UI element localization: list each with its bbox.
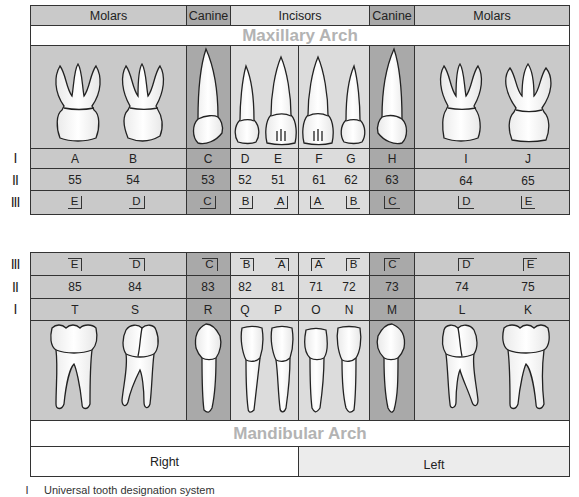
maxillary-arch-label: Maxillary Arch (31, 25, 569, 46)
lower-canine-tooth-m (374, 322, 410, 414)
palmer-symbol: A (310, 196, 325, 209)
upper-canine-tooth-h (374, 47, 410, 147)
lower-universal-p: P (268, 299, 288, 320)
lower-canine-tooth-r (190, 322, 226, 414)
legend-text: Universal tooth designation system (44, 484, 215, 496)
palmer-symbol: C (202, 258, 217, 271)
upper-fdi-53: 53 (188, 169, 228, 190)
upper-group-canine-left: Canine (369, 6, 414, 25)
lower-palmer-a-left: A (305, 253, 331, 275)
upper-group-canine-right: Canine (186, 6, 230, 25)
upper-fdi-55: 55 (55, 169, 95, 190)
lower-fdi-73: 73 (372, 276, 412, 298)
upper-canine-tooth-c (190, 47, 226, 147)
lower-incisor-tooth-q (238, 324, 266, 414)
side-left-label: Left (298, 446, 569, 476)
upper-incisor-tooth-d (232, 64, 262, 146)
upper-row-divider (31, 168, 569, 169)
upper-fdi-51: 51 (268, 169, 288, 190)
lower-fdi-82: 82 (235, 276, 255, 298)
lower-molar-tooth-l (438, 322, 482, 412)
upper-universal-i: I (446, 149, 486, 168)
lower-fdi-71: 71 (306, 276, 326, 298)
upper-fdi-63: 63 (372, 169, 412, 190)
upper-universal-c: C (188, 149, 228, 168)
lower-universal-o: O (306, 299, 326, 320)
upper-palmer-a-right: A (270, 191, 292, 213)
palmer-symbol: E (68, 258, 83, 271)
legend-item: IUniversal tooth designation system (10, 484, 215, 496)
upper-incisor-tooth-e (261, 55, 299, 146)
palmer-symbol: E (523, 258, 538, 271)
lower-universal-k: K (508, 299, 548, 320)
lower-universal-l: L (442, 299, 482, 320)
palmer-symbol: D (458, 196, 473, 209)
row-label-fdi-lower: II (6, 279, 24, 295)
upper-universal-f: F (309, 149, 329, 168)
upper-molar-tooth-i (436, 62, 486, 146)
upper-group-incisors: Incisors (230, 6, 369, 25)
palmer-symbol: E (68, 196, 83, 209)
lower-row-divider (31, 320, 569, 321)
lower-universal-n: N (339, 299, 359, 320)
lower-incisor-tooth-o (302, 326, 330, 414)
palmer-symbol: D (129, 258, 144, 271)
lower-fdi-81: 81 (268, 276, 288, 298)
palmer-symbol: B (346, 258, 361, 271)
mandibular-arch-label: Mandibular Arch (31, 420, 569, 447)
lower-molar-tooth-t (46, 322, 102, 412)
upper-molar-tooth-j (500, 62, 556, 146)
upper-group-molars-right: Molars (31, 6, 186, 25)
palmer-symbol: A (274, 196, 289, 209)
lower-fdi-75: 75 (508, 276, 548, 298)
lower-incisor-tooth-p (268, 324, 296, 414)
palmer-symbol: C (200, 196, 215, 209)
upper-row-divider (31, 190, 569, 191)
lower-universal-t: T (55, 299, 95, 320)
row-label-fdi-upper: II (6, 172, 24, 188)
upper-row-divider (31, 148, 569, 149)
upper-palmer-b-left: B (341, 191, 365, 213)
upper-palmer-d: D (117, 191, 157, 213)
palmer-symbol: C (384, 196, 399, 209)
lower-fdi-83: 83 (188, 276, 228, 298)
lower-fdi-85: 85 (55, 276, 95, 298)
lower-palmer-e: E (55, 253, 95, 275)
upper-fdi-54: 54 (113, 169, 153, 190)
lower-palmer-b-left: B (340, 253, 366, 275)
upper-palmer-b: B (235, 191, 257, 213)
lower-molar-tooth-s (118, 322, 162, 412)
lower-universal-s: S (115, 299, 155, 320)
lower-fdi-72: 72 (339, 276, 359, 298)
upper-palmer-d-left: D (446, 191, 486, 213)
lower-universal-r: R (188, 299, 228, 320)
upper-incisor-tooth-g (338, 64, 368, 146)
lower-palmer-c-left: C (372, 253, 412, 275)
palmer-symbol: C (384, 258, 399, 271)
lower-palmer-c: C (190, 253, 230, 275)
lower-fdi-84: 84 (115, 276, 155, 298)
lower-fdi-74: 74 (442, 276, 482, 298)
upper-palmer-e: E (55, 191, 95, 213)
upper-molar-tooth-b (118, 62, 168, 146)
upper-universal-j: J (508, 149, 548, 168)
upper-universal-g: G (341, 149, 361, 168)
row-label-universal-lower: I (6, 301, 24, 317)
palmer-symbol: A (275, 258, 290, 271)
lower-molar-tooth-k (498, 322, 554, 412)
upper-incisor-tooth-f (300, 55, 338, 146)
row-label-palmer-upper: III (6, 194, 24, 210)
row-label-palmer-lower: III (6, 256, 24, 272)
upper-universal-d: D (235, 149, 255, 168)
lower-palmer-b: B (235, 253, 259, 275)
upper-universal-h: H (372, 149, 412, 168)
palmer-symbol: D (129, 196, 144, 209)
legend-numeral: I (10, 484, 44, 496)
palmer-symbol: E (521, 196, 536, 209)
upper-universal-b: B (113, 149, 153, 168)
upper-universal-a: A (55, 149, 95, 168)
lower-palmer-a-right: A (270, 253, 294, 275)
upper-fdi-64: 64 (446, 170, 486, 191)
palmer-symbol: B (240, 258, 255, 271)
lower-row-divider (31, 298, 569, 299)
